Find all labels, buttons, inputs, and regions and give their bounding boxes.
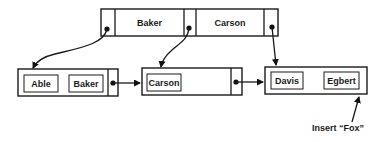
root-to-leaf1-arrow — [33, 29, 107, 68]
leaf-node-2: Carson — [142, 68, 242, 95]
leaf1-key-1: Able — [31, 79, 51, 89]
leaf-node-1: Able Baker — [18, 69, 118, 96]
leaf1-key-2: Baker — [73, 79, 99, 89]
root-to-leaf3-arrow — [272, 27, 276, 65]
root-key-1: Baker — [137, 18, 163, 28]
root-to-leaf2-arrow — [161, 28, 189, 67]
leaf2-key-1: Carson — [148, 78, 179, 88]
btree-diagram: Baker Carson Able Baker Carson Davis Egb… — [0, 0, 383, 142]
leaf3-key-2: Egbert — [327, 76, 356, 86]
insert-annotation: Insert “Fox” — [312, 123, 364, 133]
leaf3-key-1: Davis — [275, 76, 299, 86]
insert-arrow — [352, 97, 359, 122]
root-node: Baker Carson — [101, 9, 278, 36]
root-key-2: Carson — [214, 18, 245, 28]
leaf-node-3: Davis Egbert — [265, 67, 367, 94]
